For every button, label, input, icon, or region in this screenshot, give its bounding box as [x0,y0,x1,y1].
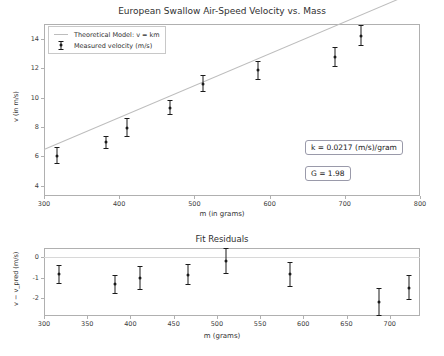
y-tick-label: -2 [20,294,39,302]
y-tick-label: 6 [20,152,39,160]
y-tick-label: 8 [20,123,39,131]
line-swatch-icon [53,30,69,39]
data-point [55,265,63,284]
x-tick-mark [303,316,304,319]
figure: European Swallow Air-Speed Velocity vs. … [0,0,444,356]
legend-item-model: Theoretical Model: v = km [53,30,160,39]
data-point [166,100,174,115]
y-tick-mark [41,156,44,157]
g-annotation: G = 1.98 [305,166,351,181]
x-tick-mark [260,316,261,319]
data-point [53,147,61,163]
x-tick-label: 400 [113,200,125,208]
x-tick-label: 400 [124,320,136,328]
data-point [111,275,119,294]
x-tick-label: 550 [254,320,266,328]
x-tick-label: 700 [384,320,396,328]
data-point [331,47,339,68]
data-point [286,262,294,288]
legend-item-measured: Measured velocity (m/s) [53,41,160,50]
x-tick-mark [119,196,120,199]
x-tick-mark [217,316,218,319]
data-point [222,248,230,274]
x-tick-mark [44,316,45,319]
data-point [199,75,207,93]
data-point [136,266,144,291]
residuals-y-axis-label: v − v_pred (m/s) [12,252,20,306]
x-tick-mark [270,196,271,199]
x-tick-label: 600 [297,320,309,328]
y-tick-mark [41,278,44,279]
x-tick-mark [420,196,421,199]
x-tick-label: 800 [414,200,426,208]
residuals-x-axis-label: m (grams) [0,332,444,340]
x-tick-label: 700 [339,200,351,208]
data-point [102,136,110,149]
y-tick-label: 12 [20,64,39,72]
errorbar-swatch-icon [53,41,69,50]
x-tick-mark [130,316,131,319]
y-tick-mark [41,98,44,99]
y-tick-mark [41,68,44,69]
x-tick-mark [347,316,348,319]
x-tick-label: 300 [38,200,50,208]
main-legend: Theoretical Model: v = km Measured veloc… [48,26,166,54]
x-tick-mark [194,196,195,199]
y-tick-mark [41,186,44,187]
x-tick-label: 650 [340,320,352,328]
legend-label-model: Theoretical Model: v = km [74,31,160,39]
y-tick-mark [41,127,44,128]
y-tick-label: 14 [20,35,39,43]
x-tick-mark [390,316,391,319]
x-tick-label: 500 [188,200,200,208]
data-point [254,61,262,80]
x-tick-mark [87,316,88,319]
y-tick-label: 10 [20,94,39,102]
y-tick-label: 4 [20,182,39,190]
main-x-axis-label: m (in grams) [0,210,444,218]
x-tick-mark [44,196,45,199]
y-tick-mark [41,298,44,299]
legend-label-measured: Measured velocity (m/s) [74,42,152,50]
x-tick-mark [174,316,175,319]
x-tick-mark [345,196,346,199]
x-tick-label: 500 [211,320,223,328]
data-point [375,288,383,316]
data-point [405,275,413,301]
x-tick-label: 600 [263,200,275,208]
data-point [184,264,192,285]
y-tick-label: 0 [20,253,39,261]
data-point [357,25,365,46]
k-annotation: k = 0.0217 (m/s)/gram [305,140,403,155]
x-tick-label: 300 [38,320,50,328]
data-point [123,118,131,137]
y-tick-label: -1 [20,274,39,282]
zero-reference-line [44,257,420,258]
main-y-axis-label: v (in m/s) [12,91,20,122]
y-tick-mark [41,39,44,40]
residuals-chart-title: Fit Residuals [0,234,444,244]
x-tick-label: 350 [81,320,93,328]
x-tick-label: 450 [167,320,179,328]
